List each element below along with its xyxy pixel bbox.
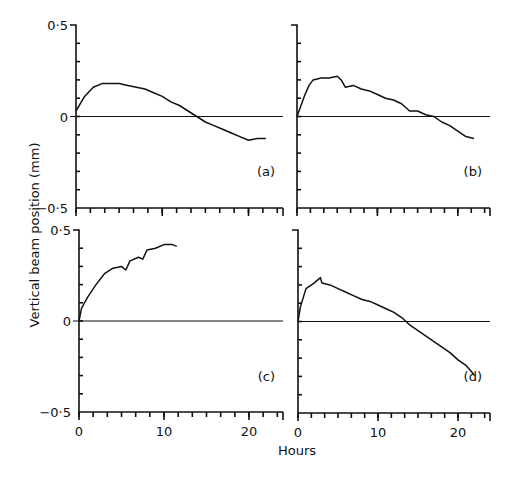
data-line <box>298 278 474 375</box>
x-tick-label: 10 <box>370 425 387 440</box>
y-tick-label: 0·5 <box>50 223 71 238</box>
panel-c: (c)0·50−0·501020 <box>39 223 283 439</box>
y-tick-label: −0·5 <box>39 405 71 420</box>
x-axis-title: Hours <box>278 443 316 458</box>
x-tick-label: 0 <box>75 424 83 439</box>
x-tick-label: 20 <box>450 425 467 440</box>
y-tick-label: 0·5 <box>47 18 68 33</box>
y-tick-label: 0 <box>60 110 68 125</box>
panel-b: (b) <box>291 25 490 216</box>
panel-label: (d) <box>464 369 482 384</box>
y-axis-title: Vertical beam position (mm) <box>27 143 42 328</box>
panel-label: (b) <box>464 164 482 179</box>
y-tick-label: 0 <box>63 314 71 329</box>
panel-label: (c) <box>258 369 275 384</box>
panel-a: (a)0·50−0·5 <box>36 18 283 216</box>
data-line <box>79 245 177 321</box>
x-tick-label: 10 <box>156 424 173 439</box>
figure: (a)0·50−0·5(b)(c)0·50−0·501020(d)01020 V… <box>0 0 512 484</box>
panel-d: (d)01020 <box>292 230 490 440</box>
data-line <box>297 76 474 138</box>
x-tick-label: 20 <box>241 424 258 439</box>
data-line <box>76 84 266 141</box>
x-tick-label: 0 <box>294 425 302 440</box>
panel-label: (a) <box>257 164 275 179</box>
